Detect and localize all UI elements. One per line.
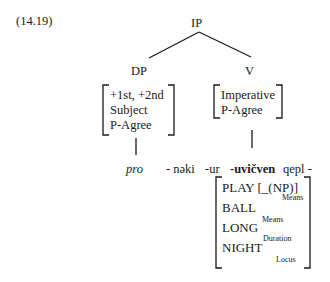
node-dp: DP [131, 64, 147, 78]
dp-feature-person: +1st, +2nd [110, 88, 164, 103]
morpheme-root: -uvičven [230, 162, 275, 176]
leaf-pro: pro [126, 162, 143, 176]
morpheme-ur: -ur [205, 162, 220, 176]
sem-long: LONG [222, 220, 258, 235]
sem-row-night: NIGHTLocus [222, 238, 298, 258]
v-features: Imperative P-Agree [221, 88, 275, 118]
sem-ball: BALL [222, 200, 256, 215]
sem-row-ball: BALLMeans [222, 198, 298, 218]
dp-features: +1st, +2nd Subject P-Agree [110, 88, 164, 133]
sem-night: NIGHT [222, 240, 262, 255]
v-feature-mood: Imperative [221, 88, 275, 103]
node-ip: IP [191, 16, 202, 30]
morpheme-neki: - nəki [166, 162, 195, 176]
morpheme-qepl: qepl - [283, 162, 312, 176]
dp-feature-agree: P-Agree [110, 118, 164, 133]
v-feature-agree: P-Agree [221, 103, 275, 118]
node-v: V [245, 64, 254, 78]
sem-row-long: LONGDuration [222, 218, 298, 238]
dp-feature-role: Subject [110, 103, 164, 118]
sem-row-play: PLAY [_(NP)]Means [222, 178, 298, 198]
sem-night-sub: Locus [276, 250, 296, 270]
semantic-features: PLAY [_(NP)]Means BALLMeans LONGDuration… [222, 178, 298, 258]
